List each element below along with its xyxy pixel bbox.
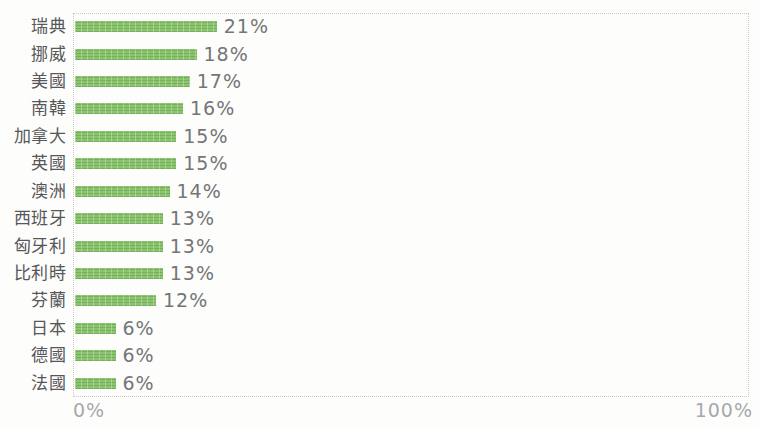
- bar-track: 13%: [75, 260, 750, 287]
- category-label: 澳洲: [0, 183, 75, 200]
- category-label: 南韓: [0, 100, 75, 117]
- bar-row: 加拿大 15%: [0, 123, 750, 150]
- bar-track: 12%: [75, 287, 750, 314]
- category-label: 加拿大: [0, 128, 75, 145]
- bar-track: 18%: [75, 40, 750, 67]
- value-label: 17%: [197, 72, 242, 91]
- value-label: 13%: [170, 237, 215, 256]
- bar-track: 6%: [75, 342, 750, 369]
- bar-rows: 瑞典 21% 挪威 18% 美國 17% 南韓 16%: [0, 13, 750, 397]
- value-label: 13%: [170, 209, 215, 228]
- bar: [75, 378, 116, 389]
- category-label: 美國: [0, 73, 75, 90]
- bar-row: 匈牙利 13%: [0, 232, 750, 259]
- bar-track: 21%: [75, 13, 750, 40]
- bar: [75, 131, 176, 142]
- bar-track: 15%: [75, 123, 750, 150]
- bar-row: 挪威 18%: [0, 40, 750, 67]
- bar-row: 西班牙 13%: [0, 205, 750, 232]
- value-label: 15%: [183, 154, 228, 173]
- category-label: 英國: [0, 155, 75, 172]
- bar: [75, 213, 163, 224]
- value-label: 21%: [224, 17, 269, 36]
- bar: [75, 76, 190, 87]
- category-label: 日本: [0, 320, 75, 337]
- bar-track: 13%: [75, 232, 750, 259]
- bar: [75, 241, 163, 252]
- bar-row: 英國 15%: [0, 150, 750, 177]
- value-label: 14%: [177, 182, 222, 201]
- value-label: 16%: [190, 99, 235, 118]
- bar-track: 14%: [75, 178, 750, 205]
- bar-track: 13%: [75, 205, 750, 232]
- bar-row: 芬蘭 12%: [0, 287, 750, 314]
- category-label: 比利時: [0, 265, 75, 282]
- bar-row: 澳洲 14%: [0, 178, 750, 205]
- value-label: 6%: [123, 374, 155, 393]
- bar: [75, 350, 116, 361]
- bar-track: 16%: [75, 95, 750, 122]
- bar: [75, 268, 163, 279]
- bar: [75, 186, 170, 197]
- bar-row: 比利時 13%: [0, 260, 750, 287]
- category-label: 挪威: [0, 46, 75, 63]
- bar-row: 美國 17%: [0, 68, 750, 95]
- value-label: 6%: [123, 346, 155, 365]
- category-label: 德國: [0, 347, 75, 364]
- bar-track: 6%: [75, 315, 750, 342]
- value-label: 12%: [163, 291, 208, 310]
- bar-row: 南韓 16%: [0, 95, 750, 122]
- bar-track: 6%: [75, 369, 750, 396]
- category-label: 匈牙利: [0, 238, 75, 255]
- bar-track: 15%: [75, 150, 750, 177]
- bar-chart: 瑞典 21% 挪威 18% 美國 17% 南韓 16%: [0, 0, 760, 427]
- bar-row: 日本 6%: [0, 315, 750, 342]
- bar: [75, 21, 217, 32]
- x-axis-tick-max: 100%: [695, 399, 753, 421]
- bar-row: 法國 6%: [0, 369, 750, 396]
- x-axis-tick-min: 0%: [73, 399, 105, 421]
- value-label: 13%: [170, 264, 215, 283]
- bar: [75, 49, 197, 60]
- bar-row: 瑞典 21%: [0, 13, 750, 40]
- bar: [75, 158, 176, 169]
- bar: [75, 323, 116, 334]
- category-label: 西班牙: [0, 210, 75, 227]
- category-label: 瑞典: [0, 18, 75, 35]
- bar: [75, 295, 156, 306]
- category-label: 法國: [0, 375, 75, 392]
- category-label: 芬蘭: [0, 292, 75, 309]
- x-axis: 0% 100%: [73, 399, 753, 421]
- value-label: 6%: [123, 319, 155, 338]
- bar-track: 17%: [75, 68, 750, 95]
- value-label: 18%: [204, 45, 249, 64]
- bar: [75, 103, 183, 114]
- value-label: 15%: [183, 127, 228, 146]
- bar-row: 德國 6%: [0, 342, 750, 369]
